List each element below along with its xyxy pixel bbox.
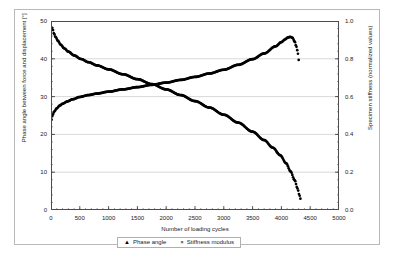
y-left-tick-label: 0 [25,207,47,213]
y-axis-right-title: Specimen stiffness (normalized values) [367,3,375,153]
data-point [52,29,55,32]
y-left-tick-label: 50 [25,18,47,24]
data-series [51,21,302,200]
y-right-tick-label: 0.4 [345,131,367,137]
figure-frame: Phase angle between force and displaceme… [14,9,380,245]
x-tick-label: 5000 [324,215,354,221]
legend-label: Phase angle [133,239,166,245]
data-point [295,183,298,186]
data-point [297,52,300,55]
y-right-tick-label: 0.8 [345,55,367,61]
y-left-tick-label: 20 [25,131,47,137]
data-point [299,197,302,200]
data-series-layer [51,21,302,200]
x-tick-label: 0 [36,215,66,221]
y-right-tick-label: 0.2 [345,169,367,175]
y-right-tick-label: 0.6 [345,93,367,99]
legend-marker-icon: ▲ [124,239,130,245]
data-series [51,36,300,121]
data-point [291,174,294,177]
legend-entry[interactable]: ×Stiffness modulus [180,239,234,245]
y-right-tick-label: 1.0 [345,18,367,24]
data-point [296,49,299,52]
y-left-tick-label: 30 [25,93,47,99]
legend-entry[interactable]: ▲Phase angle [124,239,166,245]
x-tick-label: 3000 [209,215,239,221]
x-tick-label: 3500 [238,215,268,221]
plot-canvas [51,21,339,210]
data-point [294,180,297,183]
x-tick-label: 4000 [266,215,296,221]
x-axis-title: Number of loading cycles [50,226,340,234]
data-point [297,189,300,192]
x-tick-label: 1000 [94,215,124,221]
data-point [297,59,300,62]
x-tick-label: 2000 [151,215,181,221]
y-left-tick-label: 10 [25,169,47,175]
chart-legend: ▲Phase angle×Stiffness modulus [117,237,241,248]
plot-area: 01020304050 0.00.20.40.60.81.0 050010001… [51,21,339,210]
data-point [295,45,298,48]
data-point [294,41,297,44]
data-point [298,194,301,197]
x-tick-label: 1500 [122,215,152,221]
gridlines [51,21,339,172]
legend-marker-icon: × [180,239,184,245]
y-left-tick-label: 40 [25,55,47,61]
x-tick-label: 4500 [295,215,325,221]
legend-label: Stiffness modulus [187,239,234,245]
x-tick-label: 500 [65,215,95,221]
x-tick-label: 2500 [180,215,210,221]
y-right-tick-label: 0.0 [345,207,367,213]
